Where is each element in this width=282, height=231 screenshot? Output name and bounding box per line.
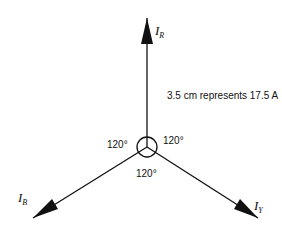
phasor-ib: IB — [17, 147, 147, 218]
phasor-iy-label: IY — [253, 198, 264, 215]
scale-note: 3.5 cm represents 17.5 A — [167, 90, 279, 101]
arrowhead-up-icon — [141, 18, 153, 44]
phasor-ir-label: IR — [154, 23, 164, 40]
phasor-ir: IR — [141, 18, 164, 147]
arrowhead-down-left-icon — [33, 199, 58, 218]
phasor-ib-label: IB — [17, 190, 27, 207]
phasor-iy: IY — [147, 147, 264, 218]
angle-label-bottom: 120° — [136, 168, 157, 179]
angle-label-right: 120° — [163, 135, 184, 146]
phasor-diagram: IR IB IY 120° 120° 120° 3.5 cm represent… — [0, 0, 282, 231]
angle-label-left: 120° — [107, 139, 128, 150]
